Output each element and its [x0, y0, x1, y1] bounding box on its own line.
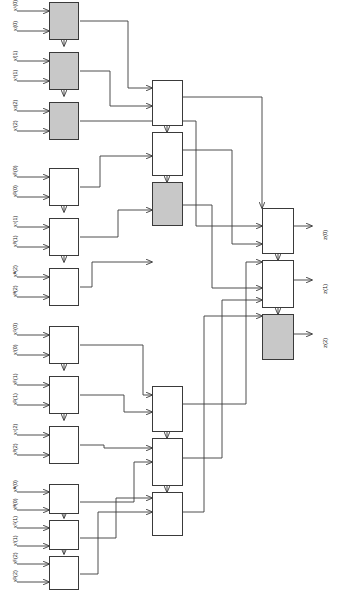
input-label-5: xᵍ(2)	[12, 100, 18, 111]
input-block-8[interactable]	[49, 376, 79, 414]
input-block-9[interactable]	[49, 426, 79, 464]
input-block-12[interactable]	[49, 556, 79, 590]
input-label-21: xᴳ(1)	[12, 516, 18, 528]
input-block-6[interactable]	[49, 268, 79, 306]
input-label-24: xᴰ(2)	[12, 570, 18, 582]
input-block-1[interactable]	[49, 2, 79, 40]
intermediate-block-5[interactable]	[152, 438, 183, 486]
input-label-2: xʲ(0)	[12, 21, 18, 31]
input-block-10[interactable]	[49, 484, 79, 514]
input-label-6: xᶠ(2)	[12, 120, 18, 131]
output-label-z1: z(1)	[322, 284, 328, 294]
intermediate-block-3[interactable]	[152, 182, 183, 226]
input-label-22: xᶠ(1)	[12, 535, 18, 546]
input-block-5[interactable]	[49, 218, 79, 256]
output-block-1[interactable]	[262, 208, 294, 254]
input-label-15: xᴱ(1)	[12, 374, 18, 386]
intermediate-block-1[interactable]	[152, 80, 183, 126]
input-block-4[interactable]	[49, 168, 79, 206]
input-label-4: xʰ(1)	[12, 70, 18, 81]
input-label-13: xᴳ(0)	[12, 323, 18, 335]
intermediate-block-6[interactable]	[152, 492, 183, 536]
input-label-10: xᴮ(1)	[12, 235, 18, 247]
output-label-z2: z(2)	[322, 338, 328, 348]
input-label-14: xᶠ(0)	[12, 344, 18, 355]
input-label-23: xᴱ(2)	[12, 553, 18, 565]
diagram-canvas: x¹(0) xʲ(0) xᴵ(1) xʰ(1) xᵍ(2) xᶠ(2) xᴱ(0…	[0, 0, 339, 595]
input-block-3[interactable]	[49, 102, 79, 140]
input-label-19: xᴬ(0)	[12, 480, 18, 492]
intermediate-block-2[interactable]	[152, 132, 183, 176]
input-label-11: xᴬ(2)	[12, 265, 18, 277]
intermediate-block-4[interactable]	[152, 386, 183, 432]
input-label-8: xᴰ(0)	[12, 185, 18, 197]
input-label-1: x¹(0)	[12, 0, 18, 11]
input-label-16: xᴰ(1)	[12, 393, 18, 405]
input-label-18: xᴮ(2)	[12, 443, 18, 455]
input-label-9: xᶜ(1)	[12, 216, 18, 227]
input-label-12: xᴴ(2)	[12, 285, 18, 297]
input-label-17: xᶜ(2)	[12, 424, 18, 435]
input-label-7: xᴱ(0)	[12, 166, 18, 178]
output-label-z0: z(0)	[322, 230, 328, 240]
input-label-3: xᴵ(1)	[12, 51, 18, 61]
output-block-2[interactable]	[262, 260, 294, 308]
input-block-7[interactable]	[49, 326, 79, 364]
input-label-20: xᴴ(0)	[12, 498, 18, 510]
input-block-2[interactable]	[49, 52, 79, 90]
input-block-11[interactable]	[49, 520, 79, 550]
output-block-3[interactable]	[262, 314, 294, 360]
